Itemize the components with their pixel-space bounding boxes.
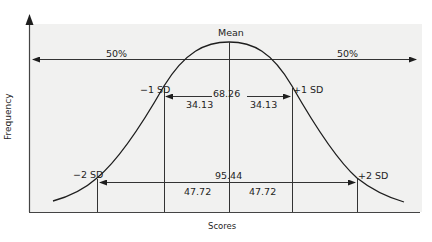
within-2sd-left-label: 47.72: [184, 187, 211, 197]
minus2sd-label: −2 SD: [73, 170, 103, 180]
left-50-label: 50%: [106, 49, 127, 59]
within-1sd-left-label: 34.13: [186, 100, 213, 110]
y-axis-label: Frequency: [3, 94, 13, 141]
within-2sd-total-label: 95.44: [215, 171, 242, 181]
plus1sd-label: +1 SD: [293, 85, 323, 95]
right-50-label: 50%: [337, 49, 358, 59]
within-2sd-right-label: 47.72: [249, 187, 276, 197]
minus1sd-label: −1 SD: [140, 85, 170, 95]
mean-label: Mean: [218, 28, 244, 38]
within-1sd-right-label: 34.13: [250, 100, 277, 110]
x-axis-label: Scores: [208, 222, 236, 231]
plus2sd-label: +2 SD: [358, 171, 388, 181]
normal-distribution-diagram: Mean 50% 50% −1 SD +1 SD 68.26 34.13 34.…: [0, 0, 432, 242]
diagram-graphics: [0, 0, 432, 242]
within-1sd-total-label: 68.26: [213, 89, 240, 99]
y-axis-arrow-icon: [26, 14, 34, 25]
